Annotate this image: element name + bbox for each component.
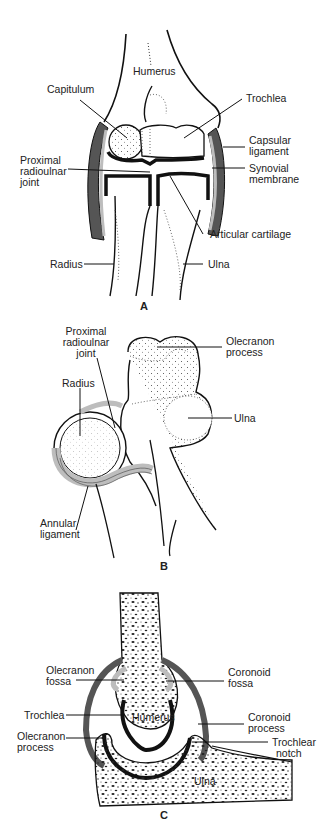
label-radius: Radius <box>62 378 95 389</box>
label-proximal-radioulnar-line3: joint <box>60 348 112 359</box>
panel-c-drawing <box>66 593 292 806</box>
label-humerus: Humerus <box>133 66 176 77</box>
label-synovial-membrane-line2: membrane <box>249 174 299 185</box>
panel-letter-a: A <box>140 300 148 312</box>
label-trochlear-notch-line2: notch <box>276 748 302 759</box>
label-ulna: Ulna <box>194 776 216 787</box>
label-annular-ligament-line2: ligament <box>40 529 80 540</box>
label-capsular-ligament-line2: ligament <box>249 146 289 157</box>
label-olecranon-process-line2: process <box>17 742 54 753</box>
label-ulna: Ulna <box>234 413 256 424</box>
label-capitulum: Capitulum <box>47 84 94 95</box>
label-ulna: Ulna <box>208 259 230 270</box>
label-trochlea: Trochlea <box>24 710 64 721</box>
label-trochlea: Trochlea <box>246 93 286 104</box>
label-articular-cartilage: Articular cartilage <box>210 229 291 240</box>
label-coronoid-process-line2: process <box>248 723 285 734</box>
elbow-joint-diagram <box>0 0 328 826</box>
label-humerus: Humerus <box>132 712 175 723</box>
label-coronoid-fossa-line2: fossa <box>228 678 253 689</box>
panel-letter-c: C <box>160 809 168 821</box>
label-radius: Radius <box>50 259 83 270</box>
label-olecranon-process-line2: process <box>226 347 263 358</box>
label-proximal-radioulnar-line3: joint <box>20 177 39 188</box>
panel-letter-b: B <box>160 560 168 572</box>
panel-b-drawing <box>54 337 232 558</box>
label-olecranon-fossa-line2: fossa <box>46 676 71 687</box>
